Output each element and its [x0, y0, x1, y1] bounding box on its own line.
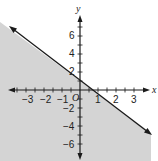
- y-tick-label: −4: [63, 121, 75, 132]
- x-tick-label: 3: [131, 94, 137, 105]
- y-tick-label: −6: [63, 139, 75, 150]
- x-tick-label: −3: [22, 94, 34, 105]
- x-tick-label: 2: [113, 94, 119, 105]
- y-tick-label: 2: [69, 66, 75, 77]
- x-tick-label: 1: [95, 94, 101, 105]
- y-tick-label: 6: [69, 30, 75, 41]
- origin-label: O: [72, 92, 79, 103]
- y-tick-label: −2: [63, 103, 75, 114]
- x-tick-label: −2: [40, 94, 52, 105]
- x-axis-label: x: [151, 84, 157, 95]
- y-axis-label: y: [75, 3, 81, 14]
- y-tick-label: 4: [69, 48, 75, 59]
- inequality-graph: y x O −3 −2 −1 1 2 3 6 4 2 −2 −4 −6: [0, 0, 158, 161]
